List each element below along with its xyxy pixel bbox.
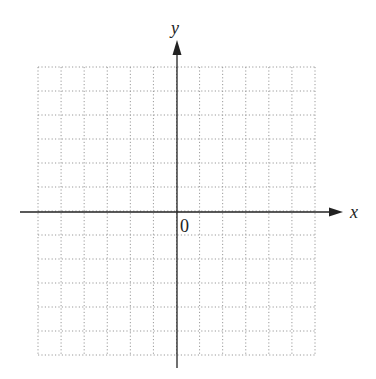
origin-label: 0: [180, 216, 189, 236]
coordinate-plane: x y 0: [0, 0, 376, 379]
y-axis-arrow-icon: [173, 40, 182, 55]
y-axis-label: y: [169, 18, 179, 38]
x-axis-arrow-icon: [329, 208, 343, 217]
x-axis-label: x: [349, 202, 358, 222]
